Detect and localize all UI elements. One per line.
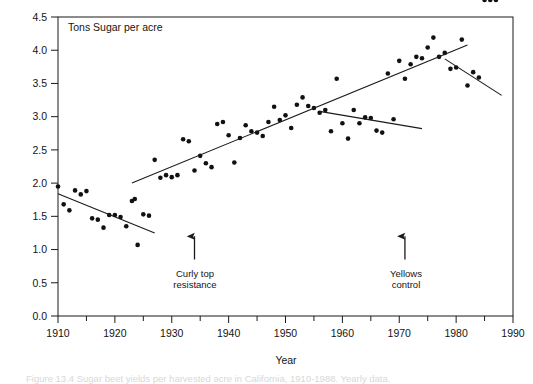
panel-title: Tons Sugar per acre bbox=[68, 21, 163, 33]
data-point bbox=[334, 76, 339, 81]
data-point bbox=[243, 123, 248, 128]
x-tick-label: 1970 bbox=[388, 327, 412, 339]
data-point bbox=[471, 70, 476, 75]
data-point bbox=[78, 192, 83, 197]
x-tick-label: 1980 bbox=[444, 327, 468, 339]
y-tick-label: 0.5 bbox=[32, 277, 47, 289]
x-tick-label: 1940 bbox=[217, 327, 241, 339]
y-axis-ticks: 0.00.51.01.52.02.53.03.54.04.5 bbox=[32, 11, 58, 322]
figure-caption: Figure 13.4 Sugar beet yields per harves… bbox=[0, 372, 533, 384]
data-point bbox=[181, 137, 186, 142]
data-point bbox=[386, 71, 391, 76]
data-point bbox=[67, 208, 72, 213]
data-point bbox=[132, 197, 137, 202]
y-tick-label: 2.5 bbox=[32, 144, 47, 156]
data-point bbox=[232, 160, 237, 165]
data-point bbox=[494, 0, 499, 2]
data-point bbox=[431, 35, 436, 40]
data-point bbox=[351, 108, 356, 113]
data-point bbox=[295, 102, 300, 107]
data-point bbox=[141, 212, 146, 217]
data-point bbox=[147, 213, 152, 218]
annotation-curly-top: Curly top resistance bbox=[173, 268, 216, 290]
data-point bbox=[158, 176, 163, 181]
data-point bbox=[397, 59, 402, 64]
trend-line bbox=[445, 59, 502, 96]
y-tick-label: 0.0 bbox=[32, 310, 47, 322]
x-axis-title: Year bbox=[275, 354, 297, 366]
data-point bbox=[90, 216, 95, 221]
data-point bbox=[96, 217, 101, 222]
annotation-yellows: Yellows control bbox=[390, 268, 422, 290]
x-tick-label: 1950 bbox=[274, 327, 298, 339]
y-tick-label: 1.5 bbox=[32, 210, 47, 222]
data-point bbox=[266, 120, 271, 125]
trend-line bbox=[320, 111, 422, 128]
x-tick-label: 1960 bbox=[331, 327, 355, 339]
yellows-label-line1: Yellows bbox=[390, 268, 422, 279]
y-tick-label: 3.5 bbox=[32, 77, 47, 89]
data-point bbox=[61, 202, 66, 207]
data-point bbox=[300, 95, 305, 100]
figure-sugar-beet-yield: 0.00.51.01.52.02.53.03.54.04.5 191019201… bbox=[0, 0, 533, 384]
data-point bbox=[221, 120, 226, 125]
data-point bbox=[73, 188, 78, 193]
scatter-chart: 0.00.51.01.52.02.53.03.54.04.5 191019201… bbox=[0, 0, 533, 384]
x-axis-ticks: 191019201930194019501960197019801990 bbox=[46, 316, 525, 339]
data-point bbox=[209, 165, 214, 170]
data-point bbox=[420, 56, 425, 61]
data-point bbox=[460, 37, 465, 42]
data-point bbox=[187, 139, 192, 144]
x-tick-label: 1930 bbox=[160, 327, 184, 339]
data-point bbox=[272, 104, 277, 109]
y-tick-label: 4.0 bbox=[32, 44, 47, 56]
x-tick-label: 1910 bbox=[46, 327, 70, 339]
trend-lines bbox=[58, 45, 502, 233]
trend-line bbox=[132, 45, 468, 183]
data-point bbox=[260, 134, 265, 139]
data-point bbox=[391, 117, 396, 122]
y-tick-label: 4.5 bbox=[32, 11, 47, 23]
curly-top-label-line2: resistance bbox=[173, 279, 216, 290]
data-point bbox=[408, 62, 413, 67]
trend-line bbox=[58, 194, 155, 233]
data-point bbox=[482, 0, 487, 2]
data-point bbox=[340, 121, 345, 126]
data-point bbox=[329, 129, 334, 134]
data-point bbox=[84, 189, 89, 194]
data-point bbox=[124, 224, 129, 229]
data-point bbox=[357, 121, 362, 126]
data-point bbox=[175, 173, 180, 178]
data-point bbox=[215, 122, 220, 127]
data-point bbox=[465, 83, 470, 88]
data-point bbox=[192, 168, 197, 173]
x-tick-label: 1990 bbox=[501, 327, 525, 339]
annotation-arrows bbox=[195, 236, 405, 259]
data-point bbox=[477, 75, 482, 80]
y-tick-label: 2.0 bbox=[32, 177, 47, 189]
data-point bbox=[169, 175, 174, 180]
plot-frame bbox=[58, 17, 513, 316]
data-point bbox=[380, 130, 385, 135]
yellows-label-line2: control bbox=[392, 279, 421, 290]
data-point bbox=[289, 126, 294, 131]
data-point bbox=[101, 225, 106, 230]
data-point bbox=[283, 113, 288, 118]
data-point bbox=[56, 184, 61, 189]
data-point bbox=[164, 173, 169, 178]
y-tick-label: 1.0 bbox=[32, 243, 47, 255]
data-point bbox=[414, 55, 419, 60]
data-point bbox=[448, 67, 453, 72]
x-tick-label: 1920 bbox=[103, 327, 127, 339]
data-point bbox=[374, 128, 379, 133]
y-tick-label: 3.0 bbox=[32, 110, 47, 122]
data-point bbox=[204, 161, 209, 166]
data-point bbox=[346, 136, 351, 141]
data-point bbox=[425, 45, 430, 50]
data-point bbox=[488, 0, 493, 2]
figure-caption-strip: Figure 13.4 Sugar beet yields per harves… bbox=[0, 372, 533, 384]
data-point bbox=[152, 158, 157, 163]
data-point bbox=[306, 104, 311, 109]
data-point bbox=[135, 243, 140, 248]
curly-top-label-line1: Curly top bbox=[176, 268, 214, 279]
